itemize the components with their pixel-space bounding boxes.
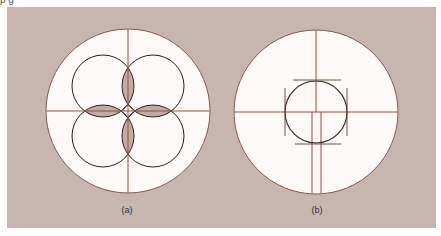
figure-a bbox=[46, 29, 210, 193]
figure-label-a: (a) bbox=[122, 205, 133, 215]
figure-b bbox=[234, 30, 398, 194]
figure-diagrams bbox=[0, 0, 441, 236]
figure-label-b: (b) bbox=[312, 205, 323, 215]
